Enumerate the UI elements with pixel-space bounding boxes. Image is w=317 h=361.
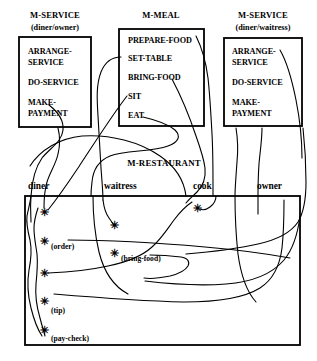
module-title-1: M-SERVICE (30, 10, 80, 20)
curve-order-line (68, 240, 290, 258)
op-m2-set-table: SET-TABLE (128, 54, 173, 63)
module-title-2: M-MEAL (142, 10, 180, 20)
module-subtitle-3: (diner/waitress) (236, 23, 291, 32)
op-m3-service: SERVICE (232, 58, 268, 67)
message-label-order: (order) (51, 242, 75, 251)
op-m1-do-service: DO-SERVICE (28, 78, 79, 87)
op-m3-do-service: DO-SERVICE (232, 78, 283, 87)
module-box-m-restaurant (25, 196, 300, 345)
module-title-3: M-SERVICE (238, 10, 288, 20)
star-icon-diner-order: ✳ (40, 235, 49, 247)
curve-tip-line (54, 200, 284, 302)
op-m3-payment: PAYMENT (232, 109, 272, 118)
star-icon-diner-3: ✳ (40, 267, 49, 279)
op-m3-arrange: ARRANGE- (232, 47, 276, 56)
star-icon-waitress-1: ✳ (110, 219, 119, 231)
star-icon-diner-1: ✳ (40, 206, 49, 218)
op-m1-arrange: ARRANGE- (28, 47, 72, 56)
diagram-canvas: M-SERVICE (diner/owner) ARRANGE- SERVICE… (0, 0, 317, 361)
curve-owner-line-b (258, 128, 262, 214)
star-icon-diner-tip: ✳ (40, 295, 49, 307)
curve-owner-line-a (235, 128, 256, 302)
restaurant-title: M-RESTAURANT (127, 158, 201, 168)
op-m3-make: MAKE- (232, 98, 260, 107)
op-m2-eat: EAT (128, 111, 145, 120)
curve-arrange-service-right-diagonal (280, 50, 302, 158)
star-icon-cook-1: ✳ (193, 202, 202, 214)
op-m1-service: SERVICE (28, 58, 64, 67)
star-icon-diner-paycheck: ✳ (40, 324, 49, 336)
op-m2-sit: SIT (128, 92, 142, 101)
message-label-tip: (tip) (51, 306, 65, 315)
message-label-pay-check: (pay-check) (51, 334, 89, 343)
role-label-diner: diner (28, 181, 49, 191)
op-m1-payment: PAYMENT (28, 109, 68, 118)
op-m2-bring-food: BRING-FOOD (128, 73, 181, 82)
curve-owner-payment-to-diner (31, 105, 64, 222)
module-diagram: M-SERVICE (diner/owner) ARRANGE- SERVICE… (0, 0, 317, 361)
star-icon-waitress-bringfood: ✳ (110, 247, 119, 259)
curve-right-edge-hook (186, 128, 306, 254)
module-subtitle-1: (diner/owner) (31, 23, 79, 32)
curve-waitress-column-down (93, 196, 128, 294)
curve-settable-to-waitress (97, 57, 121, 200)
role-label-owner: owner (257, 181, 282, 191)
curve-cook-column-to-star (200, 196, 216, 210)
op-m2-prepare-food: PREPARE-FOOD (128, 36, 192, 45)
curve-third-star-line (48, 202, 192, 273)
op-m1-make: MAKE- (28, 98, 56, 107)
role-label-waitress: waitress (104, 181, 137, 191)
message-label-bring-food: (bring-food) (121, 254, 161, 263)
role-label-cook: cook (193, 181, 213, 191)
